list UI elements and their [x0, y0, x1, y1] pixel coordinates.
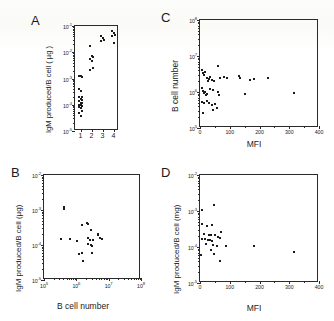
data-point [80, 115, 82, 117]
x-axis-minor-tick [92, 278, 93, 280]
data-point [206, 93, 208, 95]
data-point [204, 238, 206, 240]
y-axis-minor-tick [42, 183, 44, 184]
y-axis-tick-label: 10-3 [63, 75, 72, 83]
x-axis-minor-tick [118, 278, 119, 280]
y-axis-minor-tick [73, 115, 75, 116]
y-axis-minor-tick [198, 103, 200, 104]
y-axis-minor-tick [198, 45, 200, 46]
x-axis-tick-label: 100 [226, 284, 234, 290]
data-point [208, 78, 210, 80]
y-axis-minor-tick [198, 70, 200, 71]
data-point [114, 34, 116, 36]
y-axis-minor-tick [198, 181, 200, 182]
panel-d-x-axis-title: MFI [247, 303, 262, 313]
data-point [225, 245, 227, 247]
x-axis-minor-tick [304, 126, 305, 128]
data-point [216, 107, 218, 109]
data-point [204, 71, 206, 73]
y-axis-minor-tick [42, 269, 44, 270]
y-axis-minor-tick [42, 248, 44, 249]
x-axis-minor-tick [86, 278, 87, 280]
data-point [226, 77, 228, 79]
data-point [213, 80, 215, 82]
y-axis-minor-tick [198, 213, 200, 214]
y-axis-minor-tick [42, 259, 44, 260]
y-axis-minor-tick [73, 58, 75, 59]
x-axis-minor-tick [101, 278, 102, 280]
data-point [91, 252, 93, 254]
x-axis-tick-label: 400 [315, 284, 323, 290]
panel-c: C B cell number MFI 10810710610501002003… [160, 0, 334, 155]
y-axis-minor-tick [198, 106, 200, 107]
data-point [267, 77, 269, 79]
data-point [218, 94, 220, 96]
y-axis-minor-tick [198, 258, 200, 259]
x-axis-tick-label: 3 [101, 132, 105, 139]
y-axis-minor-tick [73, 55, 75, 56]
y-axis-minor-tick [42, 228, 44, 229]
y-axis-minor-tick [198, 75, 200, 76]
x-axis-minor-tick [54, 278, 55, 280]
y-axis-minor-tick [73, 97, 75, 98]
panel-c-plot-area: 1081071061050100200300400 [199, 19, 318, 127]
data-point [82, 260, 84, 262]
y-axis-minor-tick [198, 200, 200, 201]
y-axis-minor-tick [73, 60, 75, 61]
y-axis-minor-tick [198, 34, 200, 35]
panel-c-y-axis-title: B cell number [170, 60, 180, 112]
data-point [78, 253, 80, 255]
data-point [81, 252, 83, 254]
y-axis-minor-tick [198, 249, 200, 250]
y-axis-minor-tick [73, 106, 75, 107]
data-point [103, 39, 105, 41]
y-axis-minor-tick [198, 189, 200, 190]
y-axis-minor-tick [198, 23, 200, 24]
x-axis-minor-tick [75, 278, 76, 280]
y-axis-minor-tick [42, 178, 44, 179]
y-axis-minor-tick [73, 81, 75, 82]
y-axis-tick-label: 10-4 [63, 101, 72, 109]
y-axis-major-tick [72, 131, 75, 132]
y-axis-minor-tick [198, 214, 200, 215]
x-axis-minor-tick [99, 278, 100, 280]
y-axis-minor-tick [198, 250, 200, 251]
y-axis-minor-tick [198, 59, 200, 60]
y-axis-minor-tick [198, 58, 200, 59]
y-axis-tick-label: 10-5 [63, 127, 72, 135]
data-point [212, 244, 214, 246]
y-axis-minor-tick [42, 256, 44, 257]
panel-a-plot-area: 10-110-210-310-410-51234 [74, 25, 118, 130]
data-point [91, 60, 93, 62]
y-axis-minor-tick [198, 225, 200, 226]
data-point [220, 231, 222, 233]
data-point [92, 56, 94, 58]
y-axis-minor-tick [198, 272, 200, 273]
data-point [89, 45, 91, 47]
data-point [60, 238, 62, 240]
y-axis-minor-tick [73, 89, 75, 90]
data-point [219, 77, 221, 79]
y-axis-minor-tick [73, 44, 75, 45]
data-point [206, 225, 208, 227]
x-axis-minor-tick [215, 281, 216, 283]
data-point [203, 74, 205, 76]
y-axis-minor-tick [73, 66, 75, 67]
x-axis-minor-tick [274, 126, 275, 128]
y-axis-minor-tick [198, 22, 200, 23]
x-axis-minor-tick [131, 278, 132, 280]
y-axis-minor-tick [198, 217, 200, 218]
data-point [214, 103, 216, 105]
data-point [202, 112, 204, 114]
x-axis-minor-tick [124, 278, 125, 280]
y-axis-minor-tick [198, 266, 200, 267]
data-point [239, 77, 241, 79]
data-point [76, 240, 78, 242]
x-axis-tick-label: 107 [105, 281, 113, 289]
data-point [253, 78, 255, 80]
y-axis-minor-tick [198, 95, 200, 96]
y-axis-tick-label: 107 [189, 52, 197, 60]
y-axis-minor-tick [73, 113, 75, 114]
y-axis-minor-tick [42, 189, 44, 190]
data-point [69, 238, 71, 240]
